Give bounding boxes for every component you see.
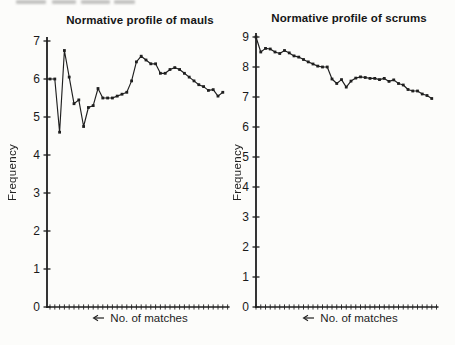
y-tick-label: 5 [33,110,40,124]
data-point-marker [259,51,262,54]
data-point-marker [49,78,52,81]
data-point-marker [293,55,296,58]
data-point-marker [121,93,124,96]
data-point-marker [173,66,176,69]
y-axis-label-scrums: Frequency [231,144,243,201]
left-arrow-line-icon [92,314,105,322]
data-point-marker [288,52,291,55]
data-point-marker [407,88,410,91]
data-point-marker [101,97,104,100]
data-point-marker [340,78,343,81]
data-point-marker [312,63,315,66]
data-point-marker [197,83,200,86]
data-point-marker [255,36,258,39]
data-point-marker [364,76,367,79]
chart-title-scrums: Normative profile of scrums [246,12,452,24]
y-tick-label: 5 [242,150,249,164]
data-point-marker [125,91,128,94]
data-point-marker [77,99,80,102]
data-point-marker [316,65,319,68]
data-point-marker [212,88,215,91]
legend-mauls: No. of matches [40,312,240,324]
y-tick-label: 3 [242,210,249,224]
y-tick-label: 3 [33,186,40,200]
data-point-marker [383,77,386,80]
data-point-marker [92,104,95,107]
data-point-marker [169,68,172,71]
data-point-marker [397,82,400,85]
data-point-marker [430,97,433,100]
legend-label: No. of matches [320,312,397,324]
y-tick-label: 2 [242,240,249,254]
data-point-marker [106,97,109,100]
data-point-marker [326,66,329,69]
data-point-marker [350,80,353,83]
data-point-marker [416,90,419,93]
y-axis-label-mauls: Frequency [6,144,18,201]
data-point-marker [97,87,100,90]
data-point-marker [135,61,138,64]
chart-title-mauls: Normative profile of mauls [40,14,240,26]
y-tick-label: 2 [33,224,40,238]
data-point-marker [202,85,205,88]
data-point-marker [53,78,56,81]
y-tick-label: 8 [242,60,249,74]
data-point-marker [221,91,224,94]
legend-label: No. of matches [110,312,187,324]
data-point-marker [154,62,157,65]
data-point-marker [264,47,267,50]
data-point-marker [178,68,181,71]
data-point-marker [159,72,162,75]
data-point-marker [149,62,152,65]
data-point-marker [297,56,300,59]
data-point-marker [302,58,305,61]
y-tick-label: 9 [242,30,249,44]
data-point-marker [274,51,277,54]
y-tick-label: 4 [242,180,249,194]
data-point-marker [73,102,76,105]
y-tick-label: 6 [242,120,249,134]
data-point-marker [269,48,272,51]
y-tick-label: 1 [242,270,249,284]
data-point-marker [207,89,210,92]
data-point-marker [130,80,133,83]
charts-canvas: 012345670123456789 [0,0,455,345]
legend-scrums: No. of matches [250,312,450,324]
data-point-marker [217,95,220,98]
data-point-marker [188,76,191,79]
data-point-marker [140,55,143,58]
y-tick-label: 7 [242,90,249,104]
y-tick-label: 7 [33,34,40,48]
data-point-marker [278,52,281,55]
data-point-marker [145,59,148,62]
data-point-marker [82,125,85,128]
data-point-marker [164,72,167,75]
data-point-marker [373,77,376,80]
left-arrow-line-icon [302,314,315,322]
data-point-marker [392,79,395,82]
data-point-marker [321,66,324,69]
data-point-marker [335,82,338,85]
y-tick-label: 0 [242,300,249,314]
data-point-marker [369,77,372,80]
data-point-marker [378,78,381,81]
data-point-marker [402,84,405,87]
data-point-marker [307,61,310,64]
data-point-marker [359,76,362,79]
data-point-marker [354,77,357,80]
data-point-marker [111,97,114,100]
data-point-marker [68,76,71,79]
data-point-marker [331,78,334,81]
data-point-marker [345,86,348,89]
data-point-marker [63,49,66,52]
data-point-marker [116,95,119,98]
data-point-marker [87,106,90,109]
y-tick-label: 6 [33,72,40,86]
data-point-marker [193,80,196,83]
data-point-marker [283,49,286,52]
data-point-marker [183,72,186,75]
scanned-figure-page: 012345670123456789 Normative profile of … [0,0,455,345]
data-point-marker [388,80,391,83]
y-tick-label: 1 [33,262,40,276]
y-tick-label: 4 [33,148,40,162]
